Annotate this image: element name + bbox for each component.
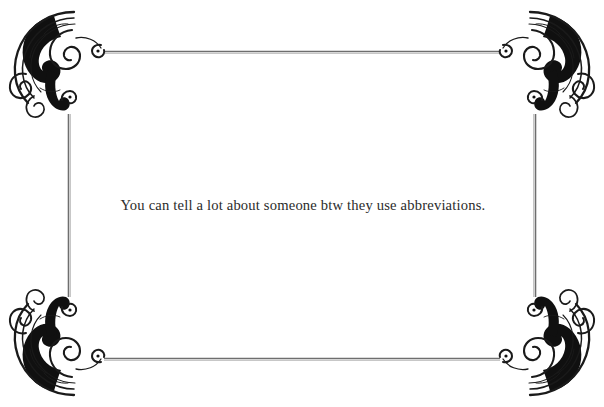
quote-card: You can tell a lot about someone btw the…: [0, 0, 604, 407]
quote-area: You can tell a lot about someone btw the…: [70, 52, 536, 359]
quote-text: You can tell a lot about someone btw the…: [121, 196, 486, 216]
